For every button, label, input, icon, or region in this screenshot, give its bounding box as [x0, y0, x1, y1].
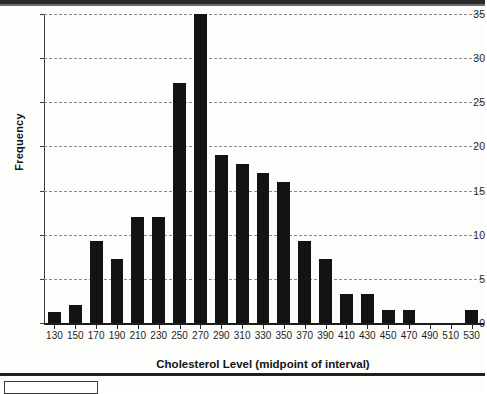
- x-tick-mark: [75, 325, 76, 329]
- gridline: [44, 14, 482, 15]
- x-tick-mark: [326, 325, 327, 329]
- bar: [236, 164, 249, 323]
- x-tick-mark: [430, 325, 431, 329]
- x-axis-title: Cholesterol Level (midpoint of interval): [44, 358, 482, 370]
- plot-area: [44, 14, 482, 323]
- bar: [403, 310, 416, 323]
- bar: [361, 294, 374, 323]
- bar: [48, 312, 61, 323]
- y-axis-title: Frequency: [13, 87, 25, 197]
- bar: [215, 155, 228, 323]
- bar: [277, 182, 290, 323]
- x-tick-mark: [242, 325, 243, 329]
- bar: [152, 217, 165, 323]
- page-divider-rule: [0, 373, 485, 376]
- bar: [111, 259, 124, 323]
- x-tick-mark: [346, 325, 347, 329]
- bar: [90, 241, 103, 323]
- x-tick-mark: [367, 325, 368, 329]
- x-axis-line: [44, 323, 484, 325]
- bar: [382, 310, 395, 323]
- x-tick-label: 530: [457, 330, 487, 341]
- x-tick-mark: [180, 325, 181, 329]
- bar: [340, 294, 353, 323]
- x-tick-mark: [159, 325, 160, 329]
- x-tick-mark: [388, 325, 389, 329]
- x-tick-mark: [200, 325, 201, 329]
- bar: [131, 217, 144, 323]
- page-empty-box: [4, 381, 98, 394]
- x-tick-mark: [117, 325, 118, 329]
- x-tick-mark: [96, 325, 97, 329]
- x-tick-mark: [305, 325, 306, 329]
- bar: [465, 310, 478, 323]
- bar: [298, 241, 311, 323]
- x-tick-mark: [284, 325, 285, 329]
- x-tick-mark: [451, 325, 452, 329]
- gridline: [44, 58, 482, 59]
- bar: [257, 173, 270, 323]
- x-tick-mark: [221, 325, 222, 329]
- x-tick-mark: [409, 325, 410, 329]
- bar: [173, 83, 186, 323]
- x-tick-mark: [263, 325, 264, 329]
- bar: [69, 305, 82, 323]
- x-tick-mark: [54, 325, 55, 329]
- gridline: [44, 146, 482, 147]
- x-tick-mark: [472, 325, 473, 329]
- gridline: [44, 102, 482, 103]
- bar: [319, 259, 332, 323]
- histogram-figure: Frequency 05101520253035 130150170190210…: [0, 6, 485, 358]
- x-tick-mark: [138, 325, 139, 329]
- bar: [194, 14, 207, 323]
